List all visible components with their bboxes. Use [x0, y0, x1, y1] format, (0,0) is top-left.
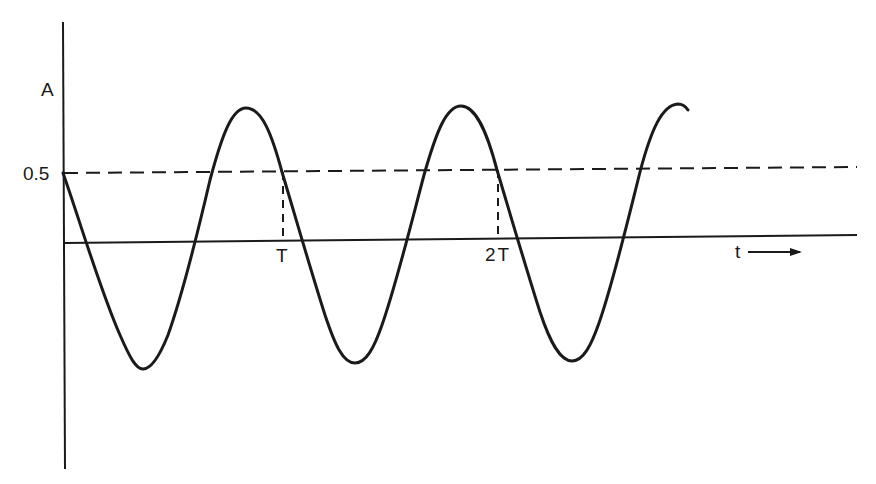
y-axis-label: A — [41, 80, 54, 99]
period-label-T: T — [276, 246, 288, 265]
period-label-2T: 2T — [485, 245, 511, 264]
waveform-diagram — [0, 0, 876, 484]
y-axis — [63, 22, 65, 469]
waveform-curve — [63, 104, 688, 369]
y-tick-label-0-5: 0.5 — [23, 164, 49, 183]
reference-line-0-5 — [64, 167, 857, 173]
right-arrow-icon — [790, 248, 802, 256]
x-axis-label: t — [735, 242, 740, 261]
